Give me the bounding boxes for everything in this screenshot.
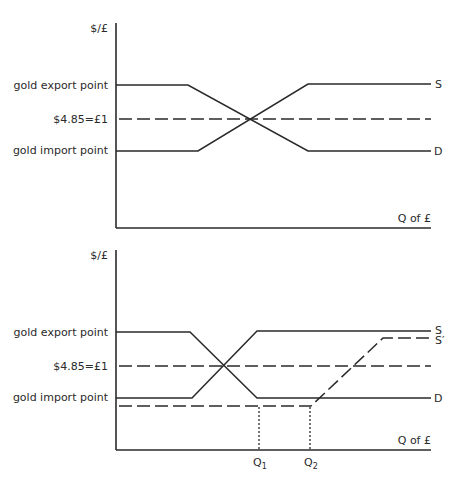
bottom-supply-curve	[116, 331, 431, 398]
q1-label: Q1	[253, 456, 267, 471]
bottom-import-label: gold import point	[13, 391, 109, 404]
top-d-label: D	[434, 145, 442, 158]
top-chart: $/£ gold export point $4.85=£1 gold impo…	[13, 22, 443, 228]
top-import-label: gold import point	[13, 144, 109, 157]
top-y-axis-label: $/£	[90, 22, 108, 35]
bottom-s-prime-label: S′	[435, 334, 445, 347]
bottom-x-axis-label: Q of £	[398, 434, 431, 447]
bottom-supply-prime-curve	[119, 338, 431, 406]
bottom-d-label: D	[434, 392, 442, 405]
top-demand-curve	[116, 85, 431, 151]
bottom-demand-curve	[116, 332, 431, 398]
gold-points-diagram: $/£ gold export point $4.85=£1 gold impo…	[0, 0, 461, 483]
top-s-label: S	[435, 78, 442, 91]
bottom-par-label: $4.85=£1	[53, 360, 108, 373]
bottom-y-axis-label: $/£	[90, 249, 108, 262]
q2-label: Q2	[304, 456, 318, 471]
bottom-chart: $/£ gold export point $4.85=£1 gold impo…	[13, 249, 445, 471]
bottom-export-label: gold export point	[14, 326, 109, 339]
top-par-label: $4.85=£1	[53, 113, 108, 126]
top-supply-curve	[116, 84, 431, 151]
top-export-label: gold export point	[14, 79, 109, 92]
top-x-axis-label: Q of £	[398, 212, 431, 225]
